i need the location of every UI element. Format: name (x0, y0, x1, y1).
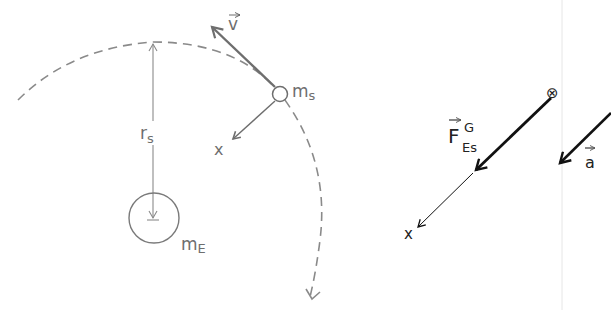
velocity-vector (212, 27, 275, 87)
earth-mass-label: mE (181, 234, 206, 256)
force-label: F (448, 124, 460, 148)
free-body-diagram-canvas: rs mE v ms x ⊗ x F G Es a (0, 0, 611, 310)
acceleration-label: a (585, 153, 595, 172)
velocity-label: v (228, 14, 238, 34)
satellite-mass-label: ms (292, 81, 316, 103)
earth-circle (129, 193, 179, 243)
radius-label: rs (140, 123, 154, 146)
x-axis-label: x (214, 140, 223, 159)
x-axis-line (418, 173, 473, 227)
satellite-circle (273, 87, 288, 102)
orbit-path (18, 42, 322, 297)
x-axis-arrow (233, 101, 275, 139)
x-axis-label: x (404, 225, 413, 243)
force-superscript: G (464, 120, 474, 135)
gravitational-force-vector (476, 98, 551, 170)
force-subscript: Es (462, 140, 477, 155)
orbit-direction-arrow-icon (306, 289, 320, 299)
orbit-diagram: rs mE v ms x (18, 14, 322, 299)
free-body-diagram: ⊗ x F G Es a (404, 84, 611, 243)
